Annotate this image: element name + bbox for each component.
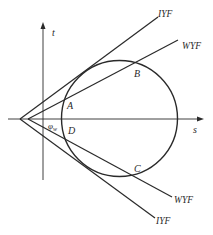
s-axis-arrow-icon	[197, 117, 204, 122]
point-d-label: D	[67, 125, 76, 136]
mohr-circle	[62, 61, 178, 177]
iyf-lower-label: IYF	[155, 216, 170, 226]
s-axis-label: s	[193, 124, 197, 135]
point-a-label: A	[66, 100, 74, 111]
wyf-upper-line	[28, 40, 178, 119]
s-axis	[8, 117, 204, 122]
t-axis-label: t	[52, 27, 55, 38]
friction-angle-label: φw	[48, 121, 57, 132]
mohr-circle-diagram: t s IYF WYF WYF IYF B A D C φw	[0, 0, 213, 235]
point-b-label: B	[134, 68, 140, 79]
point-c-label: C	[134, 163, 141, 174]
t-axis-arrow-icon	[41, 22, 46, 29]
wyf-lower-label: WYF	[174, 195, 193, 205]
wyf-upper-label: WYF	[182, 41, 201, 51]
iyf-upper-label: IYF	[157, 9, 172, 19]
